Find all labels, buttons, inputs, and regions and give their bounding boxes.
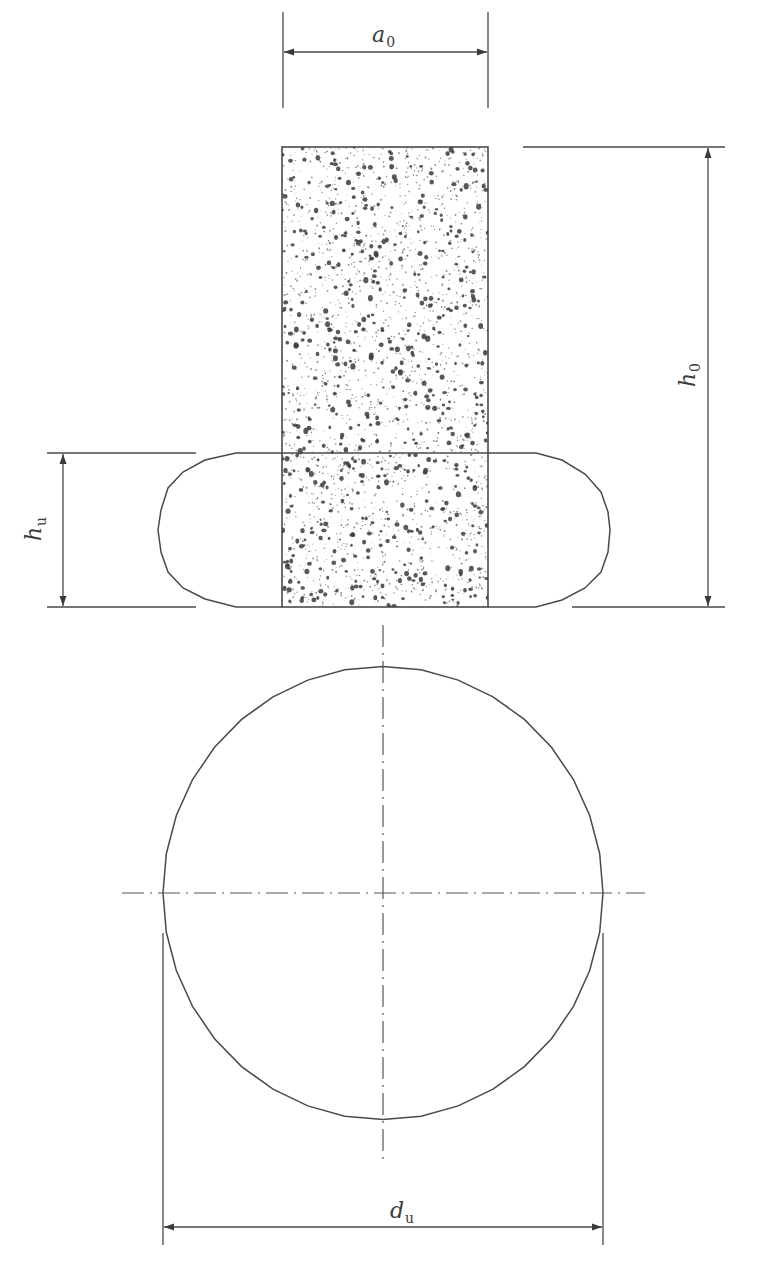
centerlines <box>122 625 645 1165</box>
label-du-base: d <box>390 1198 404 1223</box>
label-h0-base: h <box>675 373 700 387</box>
label-hu-base: h <box>21 527 46 541</box>
dimension-hu <box>47 453 196 607</box>
label-du: du <box>390 1200 414 1222</box>
label-h0-sub: 0 <box>687 363 703 372</box>
label-a0-base: a <box>372 22 385 47</box>
label-a0: a0 <box>372 24 395 46</box>
label-h0: h0 <box>677 363 699 387</box>
label-hu-sub: u <box>33 517 49 526</box>
label-hu: hu <box>23 517 45 541</box>
label-du-sub: u <box>405 1210 414 1226</box>
label-a0-sub: 0 <box>386 34 395 50</box>
drawing-canvas <box>0 0 758 1282</box>
specimen-rect <box>280 146 490 608</box>
dimension-du <box>163 933 603 1245</box>
